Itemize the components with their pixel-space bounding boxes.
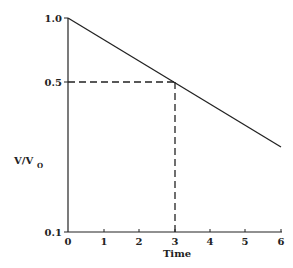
y-tick-label: 0.1 — [45, 227, 62, 238]
y-tick-label: 0.5 — [45, 77, 62, 88]
x-tick-label: 6 — [278, 236, 285, 247]
y-axis-label: V/V — [13, 155, 33, 166]
x-tick-label: 0 — [65, 236, 72, 247]
x-axis-label: Time — [163, 248, 191, 259]
y-tick-label: 1.0 — [45, 13, 62, 24]
x-tick-label: 3 — [172, 236, 179, 247]
chart: 1.0 0.5 0.1 0 1 2 3 4 5 6 Time V/V O — [0, 0, 293, 268]
x-tick-label: 4 — [207, 236, 214, 247]
x-tick-label: 5 — [242, 236, 249, 247]
x-tick-label: 2 — [136, 236, 143, 247]
x-tick-label: 1 — [101, 236, 108, 247]
y-axis-label-subscript: O — [37, 161, 43, 170]
